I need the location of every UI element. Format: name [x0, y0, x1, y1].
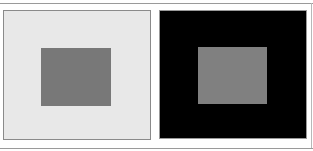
frame-right-line [311, 3, 312, 149]
frame-bottom-line [0, 148, 313, 149]
gray-square-on-light [41, 48, 111, 106]
light-background-panel [3, 10, 151, 140]
gray-square-on-dark [198, 47, 267, 104]
dark-background-panel [159, 10, 307, 139]
frame-top-line [0, 3, 313, 4]
